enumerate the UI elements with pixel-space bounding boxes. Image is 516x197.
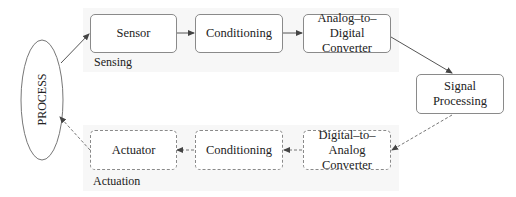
actuation-conditioning-block: Conditioning	[195, 130, 283, 170]
arrow-adc-to-signal-processing	[391, 37, 452, 73]
sensing-conditioning-block: Conditioning	[195, 14, 283, 53]
sensor-label: Sensor	[116, 26, 150, 41]
sensing-group-label: Sensing	[94, 55, 132, 70]
actuator-label: Actuator	[112, 143, 156, 158]
actuation-conditioning-label: Conditioning	[206, 143, 272, 158]
signal-processing-label: Signal Processing	[433, 79, 487, 109]
sensing-conditioning-label: Conditioning	[206, 26, 272, 41]
dac-block: Digital–to–Analog Converter	[303, 130, 391, 170]
actuator-block: Actuator	[90, 130, 177, 170]
dac-label: Digital–to–Analog Converter	[304, 128, 390, 173]
adc-label: Analog–to–Digital Converter	[304, 11, 390, 56]
sensor-block: Sensor	[90, 14, 177, 53]
process-label: PROCESS	[35, 69, 50, 131]
actuation-group-label: Actuation	[93, 174, 140, 189]
arrow-actuator-to-process	[60, 117, 90, 150]
arrow-signal-processing-to-dac	[392, 115, 452, 150]
arrow-process-to-sensor	[61, 34, 89, 63]
adc-block: Analog–to–Digital Converter	[303, 14, 391, 53]
signal-processing-block: Signal Processing	[416, 74, 504, 114]
